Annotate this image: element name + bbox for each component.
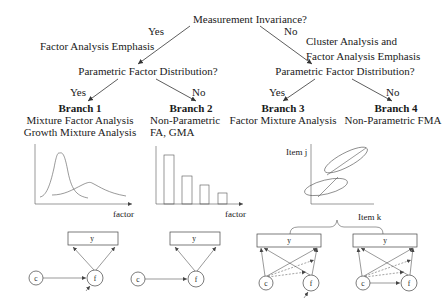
bar-1: [164, 155, 174, 204]
root-no-label: No: [284, 25, 298, 37]
branch-3-line1: Factor Mixture Analysis: [230, 114, 337, 126]
right-yes-label: Yes: [269, 86, 285, 98]
bar-4: [218, 193, 227, 204]
left-no-edge: [156, 79, 196, 101]
path-diagram-4: y c f: [353, 234, 417, 291]
branch-1-line2: Growth Mixture Analysis: [24, 126, 136, 138]
right-no-label: No: [386, 86, 400, 98]
narrow-density-curve: [40, 153, 88, 198]
no-emphasis-label-1: Cluster Analysis and: [306, 35, 398, 47]
yes-emphasis-label: Factor Analysis Emphasis: [40, 40, 154, 52]
decision-tree-diagram: Measurement Invariance? Yes No Factor An…: [0, 0, 448, 307]
branch-1-line1: Mixture Factor Analysis: [27, 114, 134, 126]
path-diagram-1: y c f: [29, 232, 118, 291]
no-emphasis-label-2: Factor Analysis Emphasis: [306, 50, 420, 62]
bar-3: [200, 185, 209, 204]
density-plot: factor: [35, 144, 134, 219]
curly-brace: [290, 220, 383, 234]
root-yes-label: Yes: [148, 25, 164, 37]
right-yes-edge: [283, 79, 315, 101]
density-xlabel: factor: [113, 209, 134, 219]
branch-2-title: Branch 2: [169, 102, 213, 114]
branch-1-title: Branch 1: [58, 102, 101, 114]
branch-4-title: Branch 4: [374, 102, 418, 114]
branch-2-line1: Non-Parametric: [150, 114, 220, 126]
left-question: Parametric Factor Distribution?: [78, 65, 217, 77]
svg-text:y: y: [287, 236, 291, 245]
bar-2: [182, 176, 192, 204]
bar-xlabel: factor: [225, 209, 246, 219]
cluster-ellipse-lower: [303, 175, 349, 199]
svg-text:y: y: [383, 236, 387, 245]
left-yes-edge: [88, 79, 118, 101]
path-diagram-3: y c f: [257, 234, 321, 298]
left-yes-label: Yes: [70, 86, 86, 98]
scatter-plot: Item j Item k: [286, 143, 382, 222]
branch-4-line1: Non-Parametric FMA: [345, 114, 442, 126]
svg-text:y: y: [90, 234, 94, 243]
scatter-xlabel: Item k: [358, 212, 382, 222]
left-no-label: No: [192, 86, 206, 98]
svg-text:y: y: [192, 234, 196, 243]
cluster-ellipse-upper: [322, 143, 371, 178]
bar-plot: factor: [156, 146, 246, 219]
branch-3-title: Branch 3: [261, 102, 305, 114]
branch-2-line2: FA, GMA: [150, 126, 194, 138]
root-question: Measurement Invariance?: [193, 13, 307, 25]
right-question: Parametric Factor Distribution?: [275, 65, 414, 77]
wide-density-curve: [52, 182, 126, 196]
path-diagram-2: y c f: [131, 232, 220, 287]
scatter-ylabel: Item j: [286, 147, 307, 157]
